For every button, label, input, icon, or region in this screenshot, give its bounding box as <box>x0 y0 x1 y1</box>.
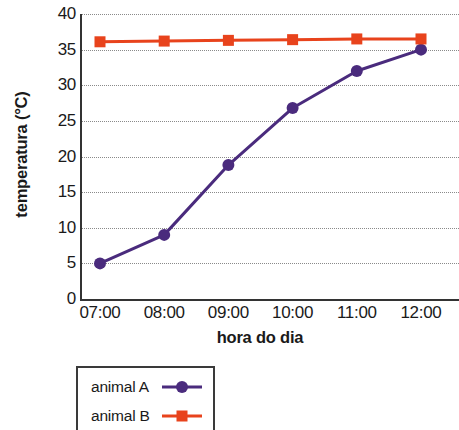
y-axis-tick-labels: 0510152025303540 <box>42 0 76 430</box>
data-point-circle <box>222 159 234 171</box>
x-axis-tick-label: 08:00 <box>129 303 199 322</box>
x-axis-tick-label: 12:00 <box>386 303 456 322</box>
data-point-circle <box>94 257 106 269</box>
y-axis-tick-label: 15 <box>42 183 76 200</box>
y-axis-tick-label: 30 <box>42 76 76 93</box>
y-axis-tick-label: 25 <box>42 112 76 129</box>
x-axis-title: hora do dia <box>80 328 440 347</box>
data-point-circle <box>287 102 299 114</box>
legend-entry[interactable]: animal A <box>78 373 213 401</box>
legend-marker-square <box>160 407 204 425</box>
legend-entry[interactable]: animal B <box>78 402 213 430</box>
data-point-circle <box>415 44 427 56</box>
y-axis-tick-label: 10 <box>42 219 76 236</box>
chart-legend: animal Aanimal B <box>76 366 215 430</box>
series-line <box>100 39 421 42</box>
data-point-square <box>95 36 106 47</box>
data-point-square <box>159 36 170 47</box>
x-axis-tick-label: 11:00 <box>322 303 392 322</box>
data-point-square <box>223 35 234 46</box>
series-line <box>100 50 421 264</box>
y-axis-title: temperatura (°C) <box>12 55 31 255</box>
legend-marker-circle <box>160 378 204 396</box>
data-point-square <box>287 34 298 45</box>
x-axis-tick-label: 10:00 <box>258 303 328 322</box>
plot-area <box>80 14 459 300</box>
y-axis-tick-label: 40 <box>42 5 76 22</box>
legend-label: animal B <box>91 407 150 425</box>
y-axis-tick-label: 35 <box>42 41 76 58</box>
data-point-square <box>416 33 427 44</box>
series-plot <box>80 14 459 301</box>
data-point-circle <box>351 65 363 77</box>
temperature-line-chart: temperatura (°C) 0510152025303540 07:000… <box>0 0 459 430</box>
x-axis-tick-label: 07:00 <box>65 303 135 322</box>
legend-label: animal A <box>91 378 149 396</box>
x-axis-tick-labels: 07:0008:0009:0010:0011:0012:00 <box>80 303 459 325</box>
y-axis-tick-label: 5 <box>42 254 76 271</box>
y-axis-tick-label: 20 <box>42 148 76 165</box>
data-point-circle <box>158 229 170 241</box>
x-axis-tick-label: 09:00 <box>193 303 263 322</box>
data-point-square <box>351 33 362 44</box>
